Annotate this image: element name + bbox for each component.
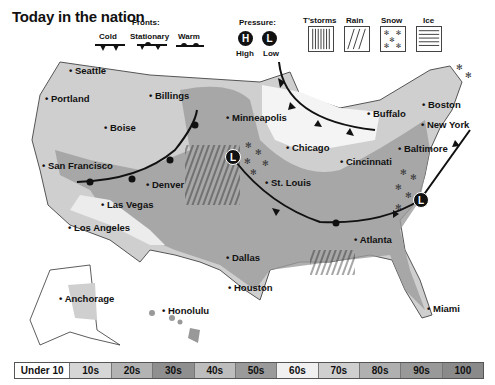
page-title: Today in the nation — [12, 8, 145, 25]
svg-text:✻: ✻ — [384, 42, 389, 50]
city-label: • Dallas — [226, 252, 260, 263]
temperature-band: 70s — [319, 363, 360, 378]
temperature-band: 90s — [401, 363, 442, 378]
ice-pattern-icon — [416, 26, 442, 52]
city-label: • New York — [421, 119, 469, 130]
temperature-band: 100 — [443, 363, 483, 378]
svg-text:✻: ✻ — [410, 173, 417, 182]
temperature-band: 20s — [112, 363, 153, 378]
low-pressure-center-icon: L — [225, 149, 241, 165]
city-label: • Houston — [228, 282, 273, 293]
svg-text:✻: ✻ — [395, 183, 402, 192]
city-label: • Chicago — [286, 142, 329, 153]
city-label: • Denver — [146, 179, 184, 190]
city-label: • Anchorage — [59, 293, 114, 304]
svg-text:✻: ✻ — [465, 71, 472, 80]
svg-text:✻: ✻ — [384, 29, 389, 37]
city-label: • Boise — [104, 122, 136, 133]
temperature-band: 60s — [277, 363, 318, 378]
svg-text:✻: ✻ — [456, 63, 463, 72]
city-label: • Miami — [427, 303, 460, 314]
snow-pattern-icon: ✻✻✻✻✻ — [380, 26, 406, 52]
city-label: • Minneapolis — [226, 112, 287, 123]
temperature-band: Under 10 — [15, 363, 70, 378]
temperature-band: 50s — [236, 363, 277, 378]
svg-text:✻: ✻ — [396, 29, 401, 37]
svg-text:✻: ✻ — [250, 168, 257, 177]
svg-text:✻: ✻ — [262, 159, 269, 168]
svg-text:✻: ✻ — [244, 157, 251, 166]
stationary-front-icon — [137, 40, 167, 52]
city-label: • San Francisco — [42, 160, 113, 171]
temperature-band: 80s — [360, 363, 401, 378]
low-pressure-center-icon: L — [413, 192, 429, 208]
high-pressure-icon: H — [238, 31, 253, 46]
city-label: • Boston — [422, 99, 461, 110]
temperature-scale: Under 1010s20s30s40s50s60s70s80s90s100 — [14, 362, 484, 379]
svg-text:✻: ✻ — [405, 191, 412, 200]
city-label: • Atlanta — [354, 234, 392, 245]
svg-text:✻: ✻ — [389, 36, 394, 44]
city-label: • Buffalo — [367, 108, 406, 119]
low-pressure-icon: L — [262, 31, 277, 46]
svg-text:✻: ✻ — [395, 203, 402, 212]
legend-high-label: High — [236, 49, 254, 58]
city-label: • Honolulu — [162, 305, 209, 316]
legend-snow-label: Snow — [381, 16, 402, 25]
legend-ice-label: Ice — [423, 16, 434, 25]
legend-tstorms-label: T'storms — [303, 16, 336, 25]
city-label: • St. Louis — [265, 177, 311, 188]
temperature-band: 30s — [153, 363, 194, 378]
city-label: • Seattle — [69, 65, 106, 76]
warm-front-icon — [176, 40, 204, 48]
city-label: • Portland — [45, 93, 90, 104]
tstorms-pattern-icon — [308, 26, 334, 52]
city-label: • Baltimore — [398, 143, 448, 154]
cold-front-icon — [95, 44, 125, 52]
rain-pattern-icon — [344, 26, 370, 52]
legend-rain-label: Rain — [346, 16, 363, 25]
fronts-heading: Fronts: — [132, 18, 160, 27]
svg-text:✻: ✻ — [396, 42, 401, 50]
svg-text:✻: ✻ — [255, 148, 262, 157]
temperature-band: 10s — [70, 363, 111, 378]
city-label: • Cincinnati — [340, 156, 392, 167]
svg-text:✻: ✻ — [400, 168, 407, 177]
city-label: • Billings — [149, 90, 189, 101]
temperature-band: 40s — [195, 363, 236, 378]
legend-cold-label: Cold — [99, 32, 117, 41]
city-label: • Los Angeles — [68, 222, 130, 233]
svg-text:✻: ✻ — [245, 141, 252, 150]
legend-low-label: Low — [263, 49, 279, 58]
pressure-heading: Pressure: — [239, 18, 276, 27]
city-label: • Las Vegas — [101, 199, 153, 210]
